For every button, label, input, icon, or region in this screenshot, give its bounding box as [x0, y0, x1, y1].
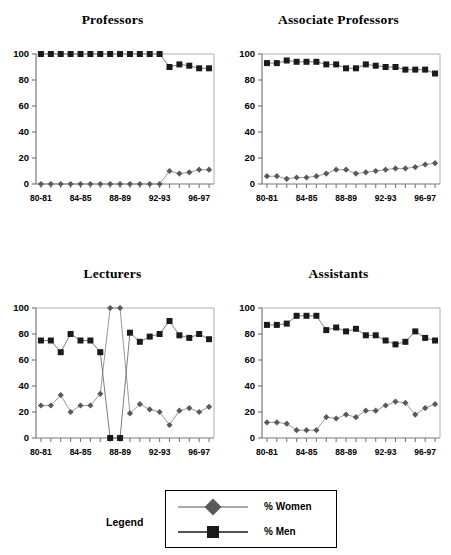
diamond-marker: [117, 305, 123, 311]
square-marker: [58, 349, 64, 355]
x-tick-label: 96-97: [188, 193, 210, 203]
legend-svg: [166, 491, 334, 545]
panel-title-associate-professors: Associate Professors: [226, 12, 451, 28]
legend-entry-men: [178, 526, 248, 538]
square-marker: [294, 313, 300, 319]
plot-svg-lecturers: 02040608010080-8184-8588-8992-9396-97: [0, 286, 225, 486]
diamond-marker: [343, 412, 349, 418]
square-marker: [206, 65, 212, 71]
square-marker: [176, 61, 182, 67]
legend-label-women: % Women: [264, 501, 312, 512]
series-line-men: [267, 316, 435, 345]
y-tick-label: 40: [244, 126, 255, 137]
square-marker: [127, 330, 133, 336]
x-tick-label: 84-85: [70, 193, 92, 203]
square-marker: [167, 64, 173, 70]
diamond-marker: [353, 414, 359, 420]
x-tick-label: 88-89: [335, 193, 357, 203]
square-marker: [48, 51, 54, 57]
diamond-marker: [323, 171, 329, 177]
diamond-marker: [303, 174, 309, 180]
diamond-marker: [313, 173, 319, 179]
diamond-marker: [383, 402, 389, 408]
square-marker: [402, 339, 408, 345]
square-marker: [38, 338, 44, 344]
square-marker: [313, 59, 319, 65]
diamond-marker: [363, 408, 369, 414]
y-tick-label: 0: [250, 432, 255, 443]
diamond-marker: [48, 181, 54, 187]
square-marker: [373, 63, 379, 69]
square-marker: [422, 335, 428, 341]
y-tick-label: 20: [18, 406, 29, 417]
y-tick-label: 60: [244, 100, 255, 111]
square-marker: [157, 51, 163, 57]
square-marker: [196, 331, 202, 337]
diamond-marker: [402, 165, 408, 171]
square-marker: [186, 63, 192, 69]
square-marker: [68, 51, 74, 57]
diamond-marker: [205, 499, 222, 516]
series-line-men: [41, 321, 209, 438]
plot-svg-professors: 02040608010080-8184-8588-8992-9396-97: [0, 32, 225, 232]
plot-svg-associate-professors: 02040608010080-8184-8588-8992-9396-97: [226, 32, 451, 232]
diamond-marker: [176, 408, 182, 414]
diamond-marker: [264, 419, 270, 425]
plot-svg-assistants: 02040608010080-8184-8588-8992-9396-97: [226, 286, 451, 486]
x-tick-label: 92-93: [149, 193, 171, 203]
square-marker: [147, 334, 153, 340]
x-tick-label: 88-89: [335, 447, 357, 457]
diamond-marker: [422, 161, 428, 167]
plot-professors: 02040608010080-8184-8588-8992-9396-97: [0, 32, 225, 232]
square-marker: [393, 341, 399, 347]
diamond-marker: [284, 176, 290, 182]
diamond-marker: [432, 160, 438, 166]
y-tick-label: 100: [13, 48, 29, 59]
panel-title-assistants: Assistants: [226, 266, 451, 282]
square-marker: [137, 339, 143, 345]
y-tick-label: 60: [18, 100, 29, 111]
panel-assistants: Assistants 02040608010080-8184-8588-8992…: [226, 258, 451, 486]
square-marker: [117, 51, 123, 57]
diamond-marker: [58, 181, 64, 187]
panel-title-lecturers: Lecturers: [0, 266, 225, 282]
y-tick-label: 80: [244, 328, 255, 339]
square-marker: [87, 338, 93, 344]
panel-title-professors: Professors: [0, 12, 225, 28]
x-tick-label: 92-93: [375, 447, 397, 457]
diamond-marker: [68, 409, 74, 415]
square-marker: [432, 71, 438, 77]
diamond-marker: [107, 305, 113, 311]
square-marker: [422, 67, 428, 73]
diamond-marker: [196, 167, 202, 173]
square-marker: [127, 51, 133, 57]
panel-professors: Professors 02040608010080-8184-8588-8992…: [0, 4, 225, 232]
x-tick-label: 80-81: [256, 447, 278, 457]
diamond-marker: [392, 399, 398, 405]
square-marker: [363, 332, 369, 338]
diamond-marker: [176, 171, 182, 177]
x-tick-label: 80-81: [30, 193, 52, 203]
square-marker: [207, 526, 219, 538]
legend: Legend % Women % Men: [0, 488, 451, 555]
square-marker: [383, 338, 389, 344]
square-marker: [107, 435, 113, 441]
diamond-marker: [303, 427, 309, 433]
diamond-marker: [38, 402, 44, 408]
x-tick-label: 84-85: [296, 447, 318, 457]
diamond-marker: [363, 169, 369, 175]
square-marker: [432, 338, 438, 344]
square-marker: [333, 325, 339, 331]
diamond-marker: [343, 167, 349, 173]
square-marker: [78, 51, 84, 57]
series-line-women: [267, 163, 435, 179]
square-marker: [284, 58, 290, 64]
y-tick-label: 40: [18, 380, 29, 391]
square-marker: [87, 51, 93, 57]
square-marker: [353, 326, 359, 332]
legend-box: % Women % Men: [165, 490, 337, 548]
square-marker: [402, 67, 408, 73]
plot-associate-professors: 02040608010080-8184-8588-8992-9396-97: [226, 32, 451, 232]
square-marker: [274, 60, 280, 66]
square-marker: [412, 67, 418, 73]
